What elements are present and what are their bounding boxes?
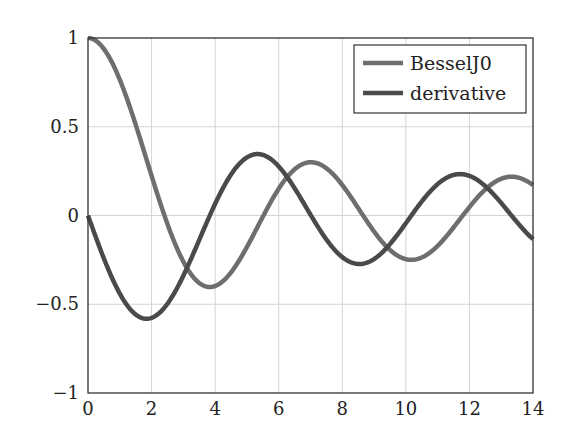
legend: BesselJ0 derivative (354, 45, 526, 113)
chart: 02468101214 10.50−0.5−1 BesselJ0 derivat… (0, 0, 566, 439)
x-tick-label: 0 (82, 398, 93, 419)
x-tick-label: 8 (337, 398, 348, 419)
legend-label-besselj0: BesselJ0 (410, 52, 492, 74)
x-tick-label: 10 (394, 398, 417, 419)
x-tick-label: 4 (209, 398, 220, 419)
x-tick-label: 6 (273, 398, 284, 419)
y-axis-ticks: 10.50−0.5−1 (35, 27, 79, 403)
y-tick-label: −1 (52, 382, 79, 403)
x-tick-label: 2 (146, 398, 157, 419)
x-axis-ticks: 02468101214 (82, 398, 544, 419)
y-tick-label: 1 (68, 27, 79, 48)
x-tick-label: 12 (458, 398, 481, 419)
y-tick-label: 0.5 (50, 116, 79, 137)
y-tick-label: −0.5 (35, 293, 79, 314)
legend-label-derivative: derivative (410, 82, 506, 104)
y-tick-label: 0 (68, 205, 79, 226)
x-tick-label: 14 (522, 398, 545, 419)
